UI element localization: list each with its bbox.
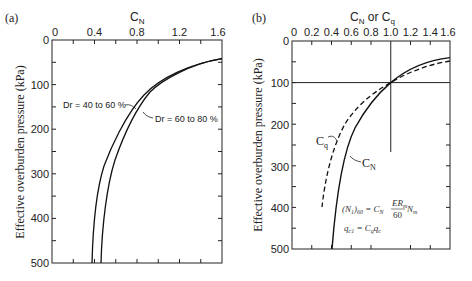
svg-text:500: 500 bbox=[31, 257, 49, 269]
y-axis-title-a: Effective overburden pressure (kPa) bbox=[13, 65, 27, 238]
svg-text:(N1)60 = CN: (N1)60 = CN bbox=[342, 204, 385, 215]
svg-text:0.8: 0.8 bbox=[129, 26, 144, 38]
svg-text:1.2: 1.2 bbox=[403, 26, 418, 38]
chart-panel-a: (a) CN 0 0.4 0.8 1. bbox=[5, 10, 226, 269]
svg-text:0: 0 bbox=[52, 26, 58, 38]
svg-text:0.2: 0.2 bbox=[304, 26, 319, 38]
svg-text:500: 500 bbox=[271, 243, 289, 255]
svg-text:1.6: 1.6 bbox=[210, 26, 225, 38]
chart-panel-b: (b) CN or Cq 0 0.2 0.4 0.6 0.8 1.0 bbox=[251, 10, 456, 255]
svg-text:Nm: Nm bbox=[406, 204, 418, 215]
y-tick-labels-a: 0 100 200 300 400 500 bbox=[31, 34, 49, 269]
x-ticks-a bbox=[52, 40, 222, 263]
leader-line bbox=[143, 112, 153, 118]
equation-qc1: qc1 = Cqqc bbox=[344, 223, 381, 234]
equation-n1-60: (N1)60 = CN ERm 60 Nm bbox=[342, 198, 418, 220]
annotation-cn: CN bbox=[362, 156, 376, 172]
svg-text:qc1 = Cqqc: qc1 = Cqqc bbox=[344, 223, 381, 234]
svg-text:400: 400 bbox=[271, 202, 289, 214]
svg-text:100: 100 bbox=[31, 79, 49, 91]
svg-text:0: 0 bbox=[291, 26, 297, 38]
panel-a-label: (a) bbox=[5, 11, 18, 25]
series-dr-60-80 bbox=[101, 59, 222, 263]
svg-text:200: 200 bbox=[271, 119, 289, 131]
svg-text:1.0: 1.0 bbox=[383, 26, 398, 38]
svg-text:1.4: 1.4 bbox=[423, 26, 438, 38]
svg-text:0.4: 0.4 bbox=[87, 26, 102, 38]
svg-text:1.6: 1.6 bbox=[440, 26, 455, 38]
svg-text:0.4: 0.4 bbox=[324, 26, 339, 38]
svg-text:300: 300 bbox=[271, 161, 289, 173]
svg-text:0: 0 bbox=[283, 35, 289, 47]
svg-text:0.8: 0.8 bbox=[363, 26, 378, 38]
x-tick-labels-a: 0 0.4 0.8 1.2 1.6 bbox=[52, 26, 226, 38]
svg-text:60: 60 bbox=[393, 210, 403, 220]
x-axis-title-a: CN bbox=[130, 10, 145, 26]
series-dr-40-60 bbox=[92, 59, 222, 263]
figure: (a) CN 0 0.4 0.8 1. bbox=[0, 0, 472, 281]
svg-text:ERm: ERm bbox=[391, 198, 408, 209]
svg-text:200: 200 bbox=[31, 123, 49, 135]
leader-line bbox=[328, 136, 337, 141]
svg-text:100: 100 bbox=[271, 77, 289, 89]
annotation-dr-60-80: Dr = 60 to 80 % bbox=[155, 114, 218, 124]
x-tick-labels-b: 0 0.2 0.4 0.6 0.8 1.0 1.2 1.4 1.6 bbox=[291, 26, 456, 38]
y-axis-title-b: Effective overburden pressure (kPa) bbox=[251, 58, 265, 231]
panel-b-label: (b) bbox=[252, 11, 266, 25]
annotation-cq: Cq bbox=[316, 134, 328, 150]
leader-line bbox=[350, 156, 361, 162]
y-tick-labels-b: 0 100 200 300 400 500 bbox=[271, 35, 289, 255]
plot-frame-a bbox=[52, 40, 222, 263]
svg-text:0.6: 0.6 bbox=[344, 26, 359, 38]
svg-text:0: 0 bbox=[43, 34, 49, 46]
svg-text:400: 400 bbox=[31, 212, 49, 224]
svg-text:300: 300 bbox=[31, 168, 49, 180]
svg-text:1.2: 1.2 bbox=[172, 26, 187, 38]
x-axis-title-b: CN or Cq bbox=[350, 10, 395, 26]
annotation-dr-40-60: Dr = 40 to 60 % bbox=[63, 100, 126, 110]
